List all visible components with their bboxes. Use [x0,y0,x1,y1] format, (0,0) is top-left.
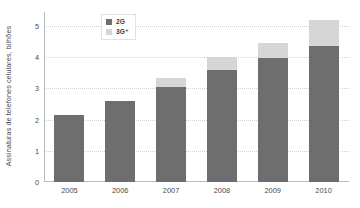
bar-group[interactable] [207,12,237,182]
legend-item-3g: 3G⁺ [106,28,129,36]
bar-segment-3g[interactable] [309,20,339,47]
bar-segment-2g[interactable] [309,46,339,182]
bar-segment-2g[interactable] [258,58,288,182]
bar-segment-3g[interactable] [207,57,237,70]
bar-group[interactable] [156,12,186,182]
y-axis-tick-label: 3 [35,84,39,93]
dark-gray-swatch-icon [106,19,112,25]
legend-label-2g: 2G [116,18,125,25]
bar-group[interactable] [258,12,288,182]
bar-group[interactable] [54,12,84,182]
x-axis-tick-label: 2010 [309,186,339,200]
bar-segment-3g[interactable] [258,43,288,59]
x-axis-tick-labels: 200520062007200820092010 [44,186,349,200]
y-axis-tick-label: 5 [35,22,39,31]
x-axis-tick-label: 2008 [207,186,237,200]
bar-segment-2g[interactable] [156,87,186,182]
y-axis-tick-label: 0 [35,178,39,187]
legend-label-3g: 3G⁺ [116,28,129,36]
chart-legend: 2G 3G⁺ [101,14,136,40]
x-axis-tick-label: 2009 [258,186,288,200]
x-axis-tick-label: 2006 [105,186,135,200]
x-axis-tick-label: 2005 [54,186,84,200]
bar-series-container [44,12,349,182]
bar-segment-2g[interactable] [105,101,135,182]
bar-segment-2g[interactable] [207,70,237,182]
y-axis-tick-label: 4 [35,53,39,62]
y-axis-title: Assinaturas de telefones celulares, bilh… [0,0,16,200]
chart-figure: Assinaturas de telefones celulares, bilh… [0,0,360,208]
y-axis-tick-label: 1 [35,146,39,155]
x-axis-tick-label: 2007 [156,186,186,200]
bar-group[interactable] [309,12,339,182]
bar-segment-3g[interactable] [156,78,186,87]
y-axis-tick-label: 2 [35,115,39,124]
legend-item-2g: 2G [106,18,129,25]
plot-area: 012345 [44,12,349,182]
plot-inner: 012345 [44,12,349,182]
light-gray-swatch-icon [106,29,112,35]
bar-segment-2g[interactable] [54,115,84,182]
